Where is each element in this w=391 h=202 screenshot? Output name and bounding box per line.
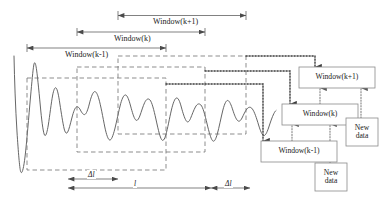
new-data-upper-line2: data (356, 132, 369, 141)
dashed-rect-window-k-minus-1 (27, 78, 166, 170)
connector-to-window-k-plus-1 (246, 56, 315, 67)
sliding-window-diagram: Window(k+1) Window(k) Window(k-1) Δl l Δ… (0, 0, 391, 202)
dashed-window-rectangles (27, 56, 246, 170)
dashed-rect-window-k-plus-1 (118, 56, 246, 134)
box-label-new-data-upper: New data (346, 118, 378, 146)
dimension-label-delta-l-left: Δl (87, 170, 96, 179)
connector-to-window-k (205, 71, 290, 104)
span-label-window-k: Window(k) (113, 35, 152, 43)
connector-to-window-k-minus-1 (166, 84, 263, 141)
dimension-label-delta-l-right: Δl (224, 179, 233, 188)
span-label-window-k-plus-1: Window(k+1) (152, 18, 199, 26)
span-arrows (27, 11, 246, 52)
dashed-rect-window-k (77, 67, 205, 152)
box-label-window-k-plus-1: Window(k+1) (299, 67, 375, 88)
span-label-window-k-minus-1: Window(k-1) (64, 51, 109, 59)
box-label-new-data-lower: New data (315, 163, 347, 191)
box-label-window-k-minus-1: Window(k-1) (261, 141, 337, 162)
dimension-arrows (68, 179, 250, 188)
new-data-lower-line2: data (325, 177, 338, 186)
dimension-label-l: l (133, 179, 137, 188)
signal-waveform (14, 56, 276, 173)
dotted-connectors (166, 56, 315, 141)
